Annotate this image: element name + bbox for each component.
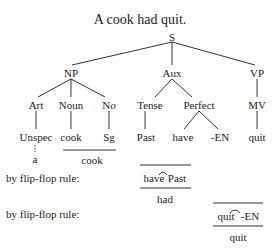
- sentence-title: A cook had quit.: [94, 12, 187, 28]
- rule-2-input-right: -EN: [241, 210, 259, 222]
- rule-1-input-left: have: [144, 172, 165, 184]
- node-sg: Sg: [103, 131, 115, 143]
- rule-label-2: by flip-flop rule:: [6, 208, 79, 220]
- node-en: -EN: [211, 131, 229, 143]
- node-have: have: [173, 131, 194, 143]
- node-a: a: [33, 153, 38, 165]
- node-perfect: Perfect: [183, 99, 214, 111]
- node-quit: quit: [248, 131, 265, 143]
- rule-2-input-left: quit: [217, 210, 234, 222]
- rule-label-1: by flip-flop rule:: [6, 172, 79, 184]
- node-aux: Aux: [163, 67, 182, 79]
- rule-1-output: had: [157, 193, 173, 205]
- node-np: NP: [64, 67, 78, 79]
- node-tense: Tense: [137, 99, 163, 111]
- node-noun: Noun: [59, 99, 83, 111]
- node-mv: MV: [248, 99, 266, 111]
- node-s: S: [169, 31, 175, 43]
- node-no-prefix: N: [102, 99, 110, 111]
- rule-1-input-right: Past: [168, 172, 186, 184]
- node-art: Art: [29, 99, 44, 111]
- node-unspec: Unspec: [20, 131, 53, 143]
- rule-2-output: quit: [229, 231, 246, 243]
- node-no: No: [102, 99, 115, 111]
- node-past: Past: [137, 131, 155, 143]
- node-vp: VP: [250, 67, 264, 79]
- node-no-suffix: o: [110, 99, 116, 111]
- node-cook: cook: [60, 131, 81, 143]
- node-cook-combined: cook: [81, 154, 102, 166]
